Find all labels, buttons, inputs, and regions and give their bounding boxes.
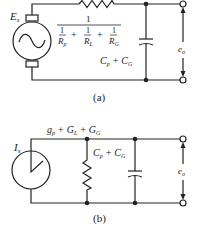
generator-brush-bottom-icon (26, 61, 38, 67)
term-2-num: 1 (86, 26, 90, 35)
circuit-a (13, 1, 183, 81)
source-label-a: Es (9, 10, 20, 24)
junction-b-bottom-2 (133, 201, 138, 206)
plus-1: + (71, 29, 77, 40)
junction-a-top (144, 2, 149, 7)
caption-a: (a) (93, 91, 106, 104)
term-1-den: Rp (57, 36, 67, 47)
term-3-num: 1 (112, 26, 116, 35)
wire-a-top-left (32, 4, 79, 15)
resistor-a-icon (79, 1, 114, 8)
plus-2: + (97, 29, 103, 40)
output-label-b: eo (178, 166, 185, 177)
junction-b-bottom-1 (85, 201, 90, 206)
wire-a-bottom (32, 66, 181, 80)
term-3-den: RG (108, 36, 120, 47)
terminal-b-top[interactable] (180, 136, 186, 142)
capacitance-label-a: Cp+CG (100, 55, 133, 67)
junction-b-top-2 (133, 137, 138, 142)
arrowhead-b-up (181, 142, 186, 148)
capacitance-label-b: Cp+CG (93, 147, 126, 159)
arrowhead-a-up (181, 7, 186, 13)
junction-a-bottom (144, 78, 149, 83)
terminal-a-top[interactable] (180, 1, 186, 7)
terminal-b-bottom[interactable] (180, 200, 186, 206)
conductance-label-b: gp+GL+GG (47, 124, 101, 136)
term-1-num: 1 (60, 26, 64, 35)
resistor-b-icon (83, 139, 91, 203)
fraction-numerator: 1 (86, 14, 91, 24)
caption-b: (b) (93, 212, 106, 225)
source-label-b: Is (13, 141, 21, 155)
arrowhead-b-down (181, 194, 186, 200)
terminal-a-bottom[interactable] (180, 77, 186, 83)
junction-b-top-1 (85, 137, 90, 142)
wire-b-bottom (31, 189, 181, 203)
output-label-a: eo (178, 44, 185, 55)
circuit-a-nodes (144, 2, 186, 83)
circuit-diagram: Es 1 1 Rp + 1 RL + 1 RG Cp+CG eo (a) (0, 0, 198, 227)
arrowhead-a-down (181, 71, 186, 77)
term-2-den: RL (83, 36, 94, 47)
generator-brush-top-icon (26, 15, 38, 21)
